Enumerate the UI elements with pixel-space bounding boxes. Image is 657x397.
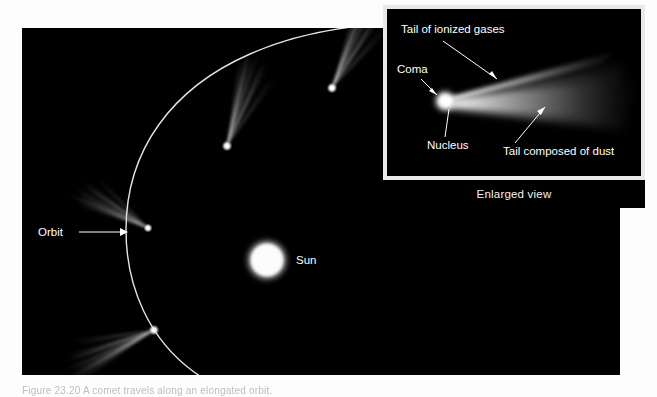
enlarged-view-caption-strip: Enlarged view (383, 180, 645, 208)
ion-tail-label: Tail of ionized gases (401, 23, 505, 35)
enlarged-view-inset: Tail of ionized gases Coma Nucleus Tail … (383, 5, 645, 180)
figure-root: Orbit Sun (0, 0, 657, 397)
orbit-label: Orbit (38, 226, 64, 238)
sun-body (245, 238, 289, 282)
nucleus-body (439, 95, 451, 107)
dust-tail-label: Tail composed of dust (503, 145, 615, 157)
enlarged-view-caption: Enlarged view (477, 188, 552, 200)
coma-label: Coma (397, 63, 428, 75)
enlarged-comet-scene: Tail of ionized gases Coma Nucleus Tail … (387, 9, 641, 176)
sun-label: Sun (296, 254, 316, 266)
figure-caption: Figure 23.20 A comet travels along an el… (22, 385, 342, 397)
nucleus-label: Nucleus (427, 139, 469, 151)
